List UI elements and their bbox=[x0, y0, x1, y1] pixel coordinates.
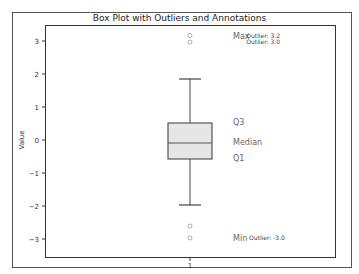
y-tick-label: 1 bbox=[35, 104, 39, 112]
y-ticks: 3 2 1 0 −1 −2 −3 bbox=[29, 38, 45, 244]
annotations: Max Outlier: 3.2 Outlier: 3.0 Q3 Median … bbox=[233, 32, 285, 243]
y-tick-label: −1 bbox=[29, 170, 39, 178]
plot-area: 3 2 1 0 −1 −2 −3 1 Max Outlier: 3.2 Outl… bbox=[0, 0, 359, 274]
annotation-outlier: Outlier: -3.0 bbox=[249, 234, 285, 241]
iqr-box bbox=[168, 123, 212, 159]
box-plot bbox=[168, 79, 212, 205]
y-tick-label: 0 bbox=[35, 137, 39, 145]
y-tick-label: −2 bbox=[29, 203, 39, 211]
y-tick-label: −3 bbox=[29, 236, 39, 244]
outlier-point bbox=[188, 34, 192, 38]
y-tick-label: 2 bbox=[35, 71, 39, 79]
y-tick-label: 3 bbox=[35, 38, 39, 46]
outlier-point bbox=[188, 40, 192, 44]
annotation-q1: Q1 bbox=[233, 154, 244, 163]
outlier-point bbox=[188, 224, 192, 228]
annotation-outlier: Outlier: 3.0 bbox=[246, 38, 280, 45]
x-tick-label: 1 bbox=[188, 262, 192, 270]
outlier-point bbox=[188, 236, 192, 240]
annotation-median: Median bbox=[233, 138, 262, 147]
annotation-min: Min bbox=[233, 234, 247, 243]
annotation-q3: Q3 bbox=[233, 118, 244, 127]
